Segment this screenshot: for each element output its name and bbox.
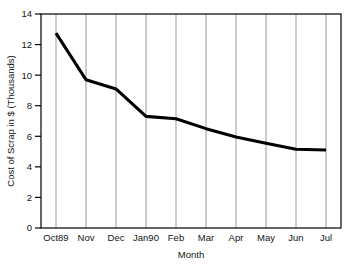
y-axis-tick-label: 10: [21, 70, 32, 81]
x-axis-tick-label: Jan90: [133, 232, 159, 243]
y-axis-tick-label: 14: [21, 8, 32, 19]
x-axis-tick-label: Feb: [168, 232, 184, 243]
x-axis-tick-label: Jun: [288, 232, 303, 243]
x-axis-tick-label: Dec: [108, 232, 125, 243]
x-axis-tick-label: Jul: [320, 232, 332, 243]
x-axis-tick-label: Mar: [198, 232, 214, 243]
x-axis-tick-label: May: [257, 232, 275, 243]
y-axis-tick-label: 6: [27, 131, 32, 142]
y-axis-tick-label: 12: [21, 39, 32, 50]
line-chart: 02468101214 Oct89NovDecJan90FebMarAprMay…: [0, 0, 354, 268]
y-axis-tick-label: 8: [27, 100, 32, 111]
y-axis-title: Cost of Scrap in $ (Thousands): [5, 55, 16, 186]
y-axis-tick-label: 2: [27, 192, 32, 203]
chart-canvas: 02468101214 Oct89NovDecJan90FebMarAprMay…: [0, 0, 354, 268]
x-axis-tick-label: Apr: [229, 232, 244, 243]
y-axis-tick-label: 4: [27, 161, 32, 172]
x-axis-tick-label: Nov: [78, 232, 95, 243]
x-axis-title: Month: [178, 249, 204, 260]
y-axis-tick-label: 0: [27, 222, 32, 233]
x-axis-tick-label: Oct89: [43, 232, 68, 243]
